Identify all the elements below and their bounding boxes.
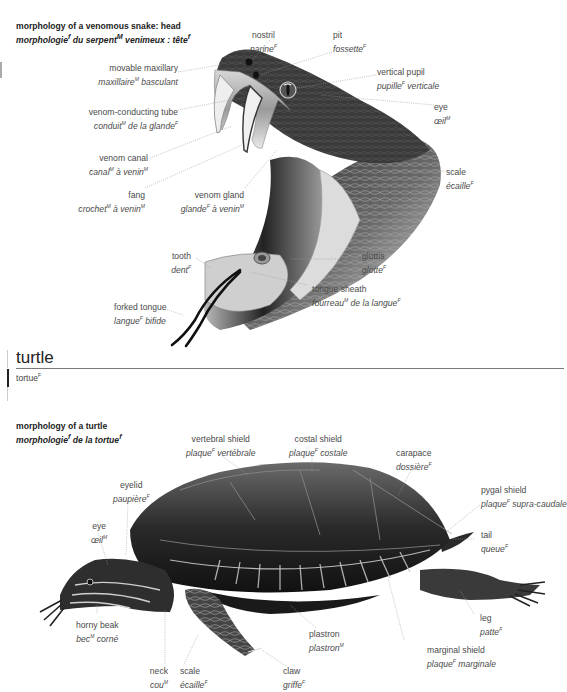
label-eye-turtle: eye œilM <box>91 521 107 545</box>
snake-title-fr: morphologief du serpentM venimeux : tête… <box>16 32 190 45</box>
snake-title-en: morphology of a venomous snake: head <box>16 21 190 32</box>
label-tooth: tooth dentF <box>171 251 191 275</box>
section-marker <box>7 369 9 387</box>
label-leg: leg patteF <box>480 613 502 637</box>
section-heading: turtle <box>16 348 54 368</box>
label-costal-shield: costal shield plaqueF costale <box>289 434 348 458</box>
label-scale-snake: scale écailleF <box>446 167 473 191</box>
page-margin-marker <box>0 62 2 78</box>
section-subheading: tortueF <box>16 372 41 383</box>
label-eye-snake: eye œilM <box>434 102 450 126</box>
label-fang: fang crochetM à veninM <box>78 190 145 214</box>
label-glottis: glottis glotteF <box>362 251 386 275</box>
section-marker-top <box>7 350 8 368</box>
label-venom-canal: venom canal canalM à veninM <box>89 153 148 177</box>
turtle-title-en: morphology of a turtle <box>16 421 122 432</box>
label-plastron: plastron plastronM <box>309 629 344 653</box>
label-vertical-pupil: vertical pupil pupilleF verticale <box>377 67 439 91</box>
label-scale-turtle: scale écailleF <box>180 666 207 690</box>
label-pygal-shield: pygal shield plaqueF supra-caudale <box>481 485 567 509</box>
label-claw: claw griffeF <box>283 666 305 690</box>
label-carapace: carapace dossièreF <box>396 448 432 472</box>
label-vertebral-shield: vertebral shield plaqueF vertébrale <box>186 434 255 458</box>
label-tongue-sheath: tongue sheath fourreauM de la langueF <box>312 284 400 308</box>
label-horny-beak: horny beak becM corné <box>76 620 119 644</box>
label-marginal-shield: marginal shield plaqueF marginale <box>427 645 496 669</box>
section-rule <box>16 368 564 369</box>
label-nostril: nostril narineF <box>250 30 277 54</box>
label-neck: neck couM <box>150 666 168 690</box>
turtle-title-fr: morphologief de la tortuef <box>16 432 122 445</box>
turtle-diagram-title: morphology of a turtle morphologief de l… <box>16 421 122 445</box>
label-movable-maxillary: movable maxillary maxillaireM basculant <box>98 63 178 87</box>
label-tail: tail queueF <box>481 530 508 554</box>
label-venom-conducting-tube: venom-conducting tube conduitM de la gla… <box>89 107 178 131</box>
label-pit: pit fossetteF <box>333 30 366 54</box>
label-eyelid: eyelid paupièreF <box>113 480 150 504</box>
snake-diagram-title: morphology of a venomous snake: head mor… <box>16 21 190 45</box>
label-venom-gland: venom gland glandeF à veninM <box>181 190 244 214</box>
label-forked-tongue: forked tongue langueF bifide <box>114 302 167 326</box>
section-marker-bottom <box>7 387 8 401</box>
